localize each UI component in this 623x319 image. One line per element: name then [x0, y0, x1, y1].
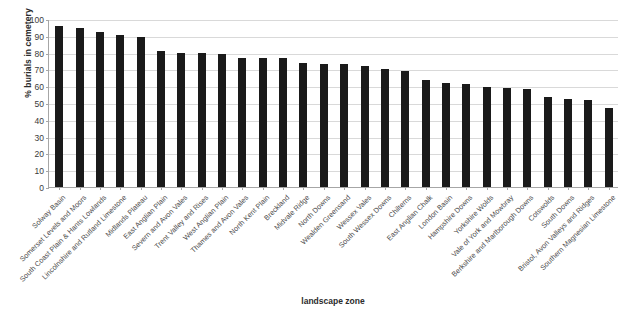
- x-tick-mark: [568, 187, 569, 190]
- x-tick-mark: [446, 187, 447, 190]
- x-tick-mark: [161, 187, 162, 190]
- bar: [361, 66, 369, 187]
- bar-slot: [314, 20, 334, 187]
- bar-slot: [578, 20, 598, 187]
- bar-slot: [415, 20, 435, 187]
- x-tick-mark: [588, 187, 589, 190]
- bar-slot: [192, 20, 212, 187]
- bar: [503, 88, 511, 187]
- bar: [462, 84, 470, 187]
- bar-slot: [456, 20, 476, 187]
- x-tick-mark: [202, 187, 203, 190]
- plot-area: 0102030405060708090100: [48, 20, 618, 188]
- x-tick-mark: [120, 187, 121, 190]
- x-tick-mark: [324, 187, 325, 190]
- bar-slot: [375, 20, 395, 187]
- bar-slot: [130, 20, 150, 187]
- x-tick-mark: [222, 187, 223, 190]
- x-tick-mark: [507, 187, 508, 190]
- bar-slot: [253, 20, 273, 187]
- bar-slot: [212, 20, 232, 187]
- x-tick-mark: [527, 187, 528, 190]
- x-tick-mark: [100, 187, 101, 190]
- x-tick-mark: [344, 187, 345, 190]
- bar: [137, 37, 145, 187]
- y-tick-label: 50: [35, 99, 44, 109]
- x-tick-mark: [242, 187, 243, 190]
- bar-slot: [110, 20, 130, 187]
- bar: [116, 35, 124, 187]
- y-tick-label: 40: [35, 116, 44, 126]
- y-tick-label: 90: [35, 32, 44, 42]
- y-tick-label: 10: [35, 166, 44, 176]
- bar: [340, 64, 348, 187]
- bar: [401, 71, 409, 187]
- bar: [259, 58, 267, 187]
- bar: [238, 58, 246, 187]
- y-tick-label: 0: [39, 183, 44, 193]
- bar-slot: [517, 20, 537, 187]
- y-tick-label: 30: [35, 133, 44, 143]
- y-tick-mark: [46, 188, 49, 189]
- y-tick-label: 70: [35, 65, 44, 75]
- bar: [483, 87, 491, 187]
- bar-slot: [538, 20, 558, 187]
- bar-slot: [273, 20, 293, 187]
- x-tick-mark: [141, 187, 142, 190]
- bar: [279, 58, 287, 187]
- bar-slot: [90, 20, 110, 187]
- bar: [55, 26, 63, 187]
- bar-slot: [69, 20, 89, 187]
- bar: [442, 83, 450, 187]
- bar: [96, 32, 104, 187]
- bar-slot: [436, 20, 456, 187]
- x-tick-mark: [59, 187, 60, 190]
- bar-slot: [599, 20, 619, 187]
- x-tick-mark: [303, 187, 304, 190]
- bar-slot: [49, 20, 69, 187]
- bar-slot: [334, 20, 354, 187]
- bar-slot: [171, 20, 191, 187]
- x-tick-mark: [487, 187, 488, 190]
- bar: [320, 64, 328, 187]
- x-tick-mark: [609, 187, 610, 190]
- bar-slot: [232, 20, 252, 187]
- y-tick-label: 80: [35, 49, 44, 59]
- x-tick-mark: [263, 187, 264, 190]
- bar: [544, 97, 552, 187]
- x-axis-title: landscape zone: [48, 296, 618, 306]
- x-tick-mark: [80, 187, 81, 190]
- y-tick-label: 60: [35, 82, 44, 92]
- bar: [198, 53, 206, 187]
- x-tick-mark: [405, 187, 406, 190]
- bar: [299, 63, 307, 187]
- y-tick-label: 20: [35, 149, 44, 159]
- bar: [523, 89, 531, 187]
- x-tick-mark: [466, 187, 467, 190]
- bar-series: [49, 20, 618, 187]
- bar-slot: [395, 20, 415, 187]
- bar: [564, 99, 572, 187]
- bar: [177, 53, 185, 187]
- bar: [422, 80, 430, 187]
- bar-slot: [558, 20, 578, 187]
- x-category-label: South Coast Plain & Hants Lowlands: [18, 193, 109, 284]
- bar: [157, 51, 165, 187]
- bar: [605, 108, 613, 187]
- x-tick-mark: [548, 187, 549, 190]
- bar: [381, 69, 389, 187]
- bar-slot: [477, 20, 497, 187]
- x-tick-mark: [181, 187, 182, 190]
- bar: [218, 54, 226, 187]
- bar-slot: [293, 20, 313, 187]
- x-tick-mark: [365, 187, 366, 190]
- bar-slot: [354, 20, 374, 187]
- bar: [584, 100, 592, 187]
- bar-slot: [497, 20, 517, 187]
- x-tick-mark: [283, 187, 284, 190]
- y-tick-label: 100: [30, 15, 44, 25]
- bar-slot: [151, 20, 171, 187]
- x-tick-mark: [426, 187, 427, 190]
- x-tick-mark: [385, 187, 386, 190]
- bar: [76, 28, 84, 187]
